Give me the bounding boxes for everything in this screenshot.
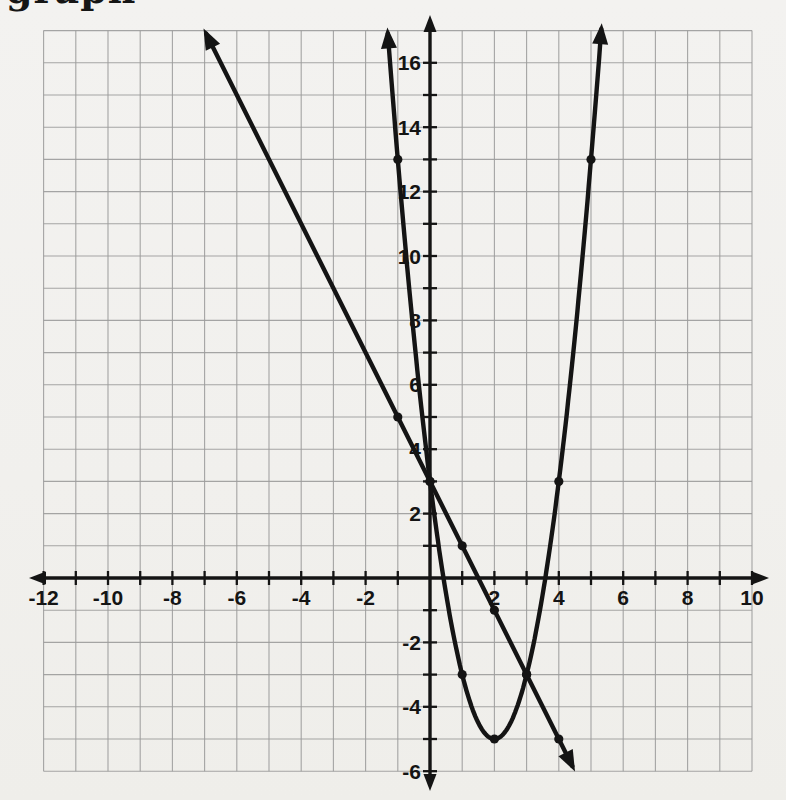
svg-text:10: 10 xyxy=(398,245,421,268)
svg-text:14: 14 xyxy=(398,116,422,139)
svg-text:2: 2 xyxy=(409,502,421,525)
svg-text:-2: -2 xyxy=(356,586,375,609)
svg-text:-6: -6 xyxy=(402,760,421,783)
svg-text:-6: -6 xyxy=(227,586,246,609)
svg-text:6: 6 xyxy=(617,586,629,609)
svg-text:8: 8 xyxy=(682,586,694,609)
svg-text:-2: -2 xyxy=(402,631,421,654)
svg-text:10: 10 xyxy=(740,586,763,609)
svg-text:-12: -12 xyxy=(28,586,58,609)
svg-text:4: 4 xyxy=(553,586,565,609)
graph-paper-page: graph -12-10-8-6-4-2246810161412108642-2… xyxy=(0,0,786,800)
svg-text:-10: -10 xyxy=(93,586,123,609)
coordinate-grid-chart: -12-10-8-6-4-2246810161412108642-2-4-6 xyxy=(0,0,786,800)
svg-text:-4: -4 xyxy=(292,586,311,609)
svg-text:-8: -8 xyxy=(163,586,182,609)
svg-text:16: 16 xyxy=(398,51,421,74)
svg-text:-4: -4 xyxy=(402,695,421,718)
